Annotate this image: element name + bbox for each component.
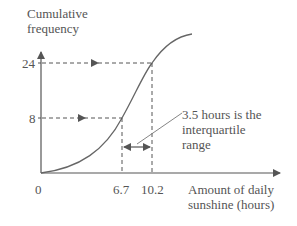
annotation-line3: range — [182, 137, 211, 152]
reference-lines — [42, 63, 152, 173]
arrow-head-24 — [91, 59, 99, 67]
x-tick-10-2: 10.2 — [141, 182, 164, 197]
y-tick-8: 8 — [29, 111, 36, 126]
arrow-head-8 — [78, 114, 86, 122]
x-tick-6-7: 6.7 — [113, 182, 129, 197]
iqr-double-arrow — [123, 143, 151, 151]
y-axis-label-line2: frequency — [27, 21, 79, 36]
x-tick-0: 0 — [35, 182, 42, 197]
annotation-line1: 3.5 hours is the — [182, 107, 261, 122]
x-axis-label-line1: Amount of daily — [188, 182, 274, 197]
y-axis-label-line1: Cumulative — [27, 6, 88, 21]
y-tick-24: 24 — [22, 56, 35, 71]
x-axis-label-line2: sunshine (hours) — [188, 197, 274, 212]
annotation-line2: interquartile — [182, 122, 246, 137]
cumulative-frequency-curve — [41, 34, 192, 173]
annotation-leader — [137, 113, 182, 144]
